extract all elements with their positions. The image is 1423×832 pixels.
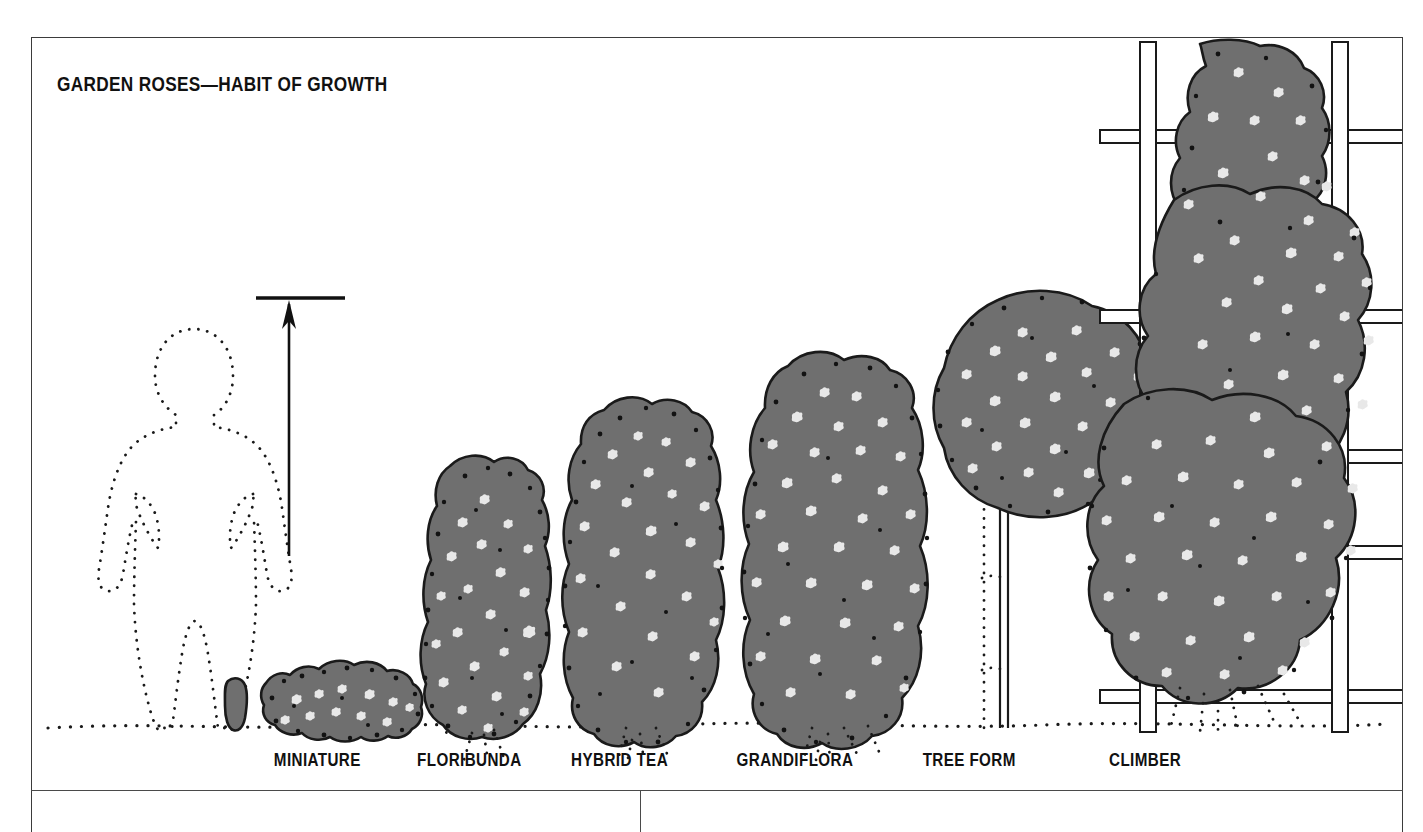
ground-line: [48, 723, 1388, 728]
label-climber: CLIMBER: [1109, 749, 1181, 771]
shrub-hybrid-tea-mass: [562, 397, 724, 747]
shrub-floribunda-mass: [421, 456, 552, 740]
label-tree-form: TREE FORM: [923, 749, 1016, 771]
label-miniature: MINIATURE: [274, 749, 361, 771]
shrub-miniature-mass: [261, 661, 422, 742]
human-silhouette: [98, 329, 291, 730]
garden-roses-habit-of-growth-illustration: .dotline { fill:none; stroke:#1a1a1a; st…: [32, 38, 1402, 790]
shrub-grandiflora: [742, 352, 930, 760]
shrub-miniature: [225, 661, 422, 742]
shrub-floribunda: [421, 456, 552, 761]
section-divider-horizontal: [31, 790, 1403, 791]
column-divider-vertical: [640, 791, 641, 832]
label-floribunda: FLORIBUNDA: [417, 749, 521, 771]
shrub-hybrid-tea: [562, 397, 724, 760]
shrub-grandiflora-mass: [742, 352, 930, 749]
height-reference-arrow: [256, 298, 345, 556]
category-label-row: MINIATURE FLORIBUNDA HYBRID TEA GRANDIFL…: [32, 749, 1402, 783]
illustration-page: GARDEN ROSES—HABIT OF GROWTH .dotline { …: [0, 0, 1423, 832]
label-hybrid-tea: HYBRID TEA: [571, 749, 668, 771]
label-grandiflora: GRANDIFLORA: [737, 749, 854, 771]
